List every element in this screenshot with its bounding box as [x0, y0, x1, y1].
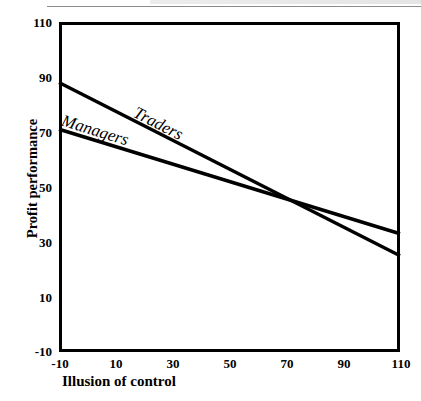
- figure-container: 110 90 70 50 30 10 -10 -10 10 30 50 70 9…: [0, 0, 421, 401]
- plot-lines-layer: [0, 0, 421, 401]
- series-line-traders: [59, 83, 400, 256]
